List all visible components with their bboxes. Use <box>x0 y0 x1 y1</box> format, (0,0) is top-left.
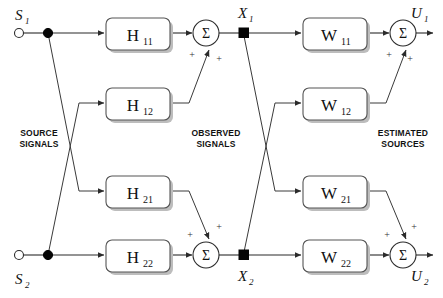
block-w21-subscript: 21 <box>341 194 351 205</box>
section-observed-line1: OBSERVED <box>191 128 240 138</box>
summer-bottom-right-plus-b: + <box>411 221 417 232</box>
block-h12[interactable]: H 12 <box>106 88 173 123</box>
block-h22[interactable]: H 22 <box>106 240 173 275</box>
block-h12-label: H <box>127 96 139 115</box>
block-h11-label: H <box>127 26 139 45</box>
block-w21[interactable]: W 21 <box>303 176 370 211</box>
label-u1-subscript: 1 <box>424 14 429 24</box>
block-w12-subscript: 12 <box>341 106 351 117</box>
label-x1-text: X <box>237 5 248 21</box>
block-h12-subscript: 12 <box>143 106 153 117</box>
source-node-s1[interactable] <box>15 29 24 38</box>
tap-node-x1[interactable] <box>239 28 249 38</box>
block-w11-subscript: 11 <box>341 36 351 47</box>
tap-node-s2[interactable] <box>43 250 52 259</box>
block-h11[interactable]: H 11 <box>106 18 173 53</box>
label-s1-text: S <box>15 7 23 23</box>
label-x2: X 2 <box>237 268 254 287</box>
label-s2-subscript: 2 <box>25 280 30 290</box>
section-estimated-line1: ESTIMATED <box>378 128 428 138</box>
tap-node-s1[interactable] <box>43 28 52 37</box>
block-w21-label: W <box>321 184 338 203</box>
section-label-observed-signals: OBSERVED SIGNALS <box>191 128 240 149</box>
summer-top-left-glyph: Σ <box>202 26 210 41</box>
section-source-line1: SOURCE <box>20 128 58 138</box>
block-h21-subscript: 21 <box>143 194 153 205</box>
block-h21[interactable]: H 21 <box>106 176 173 211</box>
block-diagram-canvas: H 11 H 12 H 21 H 22 W 11 W 12 W 21 <box>0 0 443 298</box>
label-s1: S 1 <box>15 7 30 26</box>
summer-bottom-right[interactable]: Σ + + <box>384 221 417 268</box>
section-label-estimated-sources: ESTIMATED SOURCES <box>378 128 428 149</box>
block-h22-subscript: 22 <box>143 258 153 269</box>
summer-bottom-left-plus-b: + <box>216 221 222 232</box>
summer-bottom-left-plus-a: + <box>187 229 193 240</box>
block-w22[interactable]: W 22 <box>303 240 370 275</box>
block-h22-label: H <box>127 248 139 267</box>
tap-node-x2[interactable] <box>239 250 249 260</box>
summer-top-left-plus-b: + <box>216 53 222 64</box>
summer-top-right-glyph: Σ <box>399 26 407 41</box>
summer-top-right-plus-b: + <box>407 53 413 64</box>
label-s2: S 2 <box>15 271 30 290</box>
block-w22-subscript: 22 <box>341 258 351 269</box>
summer-bottom-right-glyph: Σ <box>399 248 407 263</box>
summer-bottom-right-plus-a: + <box>384 229 390 240</box>
bss-diagram-container: H 11 H 12 H 21 H 22 W 11 W 12 W 21 <box>0 0 443 298</box>
label-s2-text: S <box>15 271 23 287</box>
label-s1-subscript: 1 <box>25 16 30 26</box>
section-observed-line2: SIGNALS <box>196 139 235 149</box>
label-x2-subscript: 2 <box>249 277 254 287</box>
block-w22-label: W <box>321 248 338 267</box>
summer-top-right[interactable]: Σ + + <box>386 20 416 64</box>
block-h21-label: H <box>127 184 139 203</box>
block-w12[interactable]: W 12 <box>303 88 370 123</box>
block-w11-label: W <box>321 26 338 45</box>
block-w11[interactable]: W 11 <box>303 18 370 53</box>
label-x1: X 1 <box>237 5 254 24</box>
label-x1-subscript: 1 <box>249 14 254 24</box>
summer-top-left-plus-a: + <box>189 49 195 60</box>
block-w12-label: W <box>321 96 338 115</box>
section-label-source-signals: SOURCE SIGNALS <box>19 128 58 149</box>
label-u2-subscript: 2 <box>424 277 429 287</box>
section-source-line2: SIGNALS <box>19 139 58 149</box>
summer-bottom-left-glyph: Σ <box>202 248 210 263</box>
label-x2-text: X <box>237 268 248 284</box>
block-h11-subscript: 11 <box>143 36 153 47</box>
label-u2: U 2 <box>411 268 429 287</box>
summer-top-right-plus-a: + <box>386 49 392 60</box>
label-u1: U 1 <box>411 5 429 24</box>
wire-s1-to-h21 <box>48 33 104 191</box>
label-u2-text: U <box>411 268 423 284</box>
wire-s2-to-h12 <box>48 103 104 255</box>
label-u1-text: U <box>411 5 423 21</box>
section-estimated-line2: SOURCES <box>381 139 425 149</box>
source-node-s2[interactable] <box>15 251 24 260</box>
